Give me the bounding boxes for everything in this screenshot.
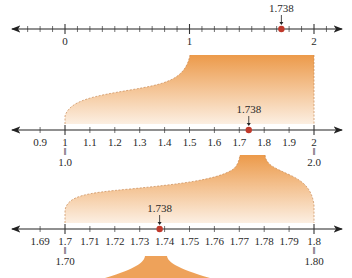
point-marker: [156, 226, 162, 232]
tick-label: 1.4: [158, 136, 172, 148]
marker-label: 1.738: [236, 103, 261, 115]
tick-label: 1.2: [108, 136, 122, 148]
tick-label: 1.7: [232, 136, 246, 148]
number-line-1: 0121.738: [12, 2, 342, 47]
point-marker: [246, 127, 252, 133]
tick-label: 1.76: [205, 235, 225, 247]
tick-label-alt: 1.80: [304, 255, 324, 267]
tick-label-alt: 1.0: [58, 156, 72, 168]
tick-label: 1.72: [105, 235, 124, 247]
tick-label: 1.78: [255, 235, 275, 247]
tick-label: 1.5: [183, 136, 197, 148]
tick-label-alt: 1.70: [55, 255, 75, 267]
tick-label: 1.6: [208, 136, 222, 148]
tick-label: 1: [187, 35, 193, 47]
tick-label: 1.75: [180, 235, 200, 247]
tick-label: 1.79: [279, 235, 299, 247]
tick-label: 1.71: [80, 235, 99, 247]
tick-label: 1.73: [130, 235, 150, 247]
tick-label: 0.9: [33, 136, 47, 148]
marker-label: 1.738: [269, 2, 294, 14]
tick-label: 1.3: [133, 136, 147, 148]
tick-label: 1.74: [155, 235, 175, 247]
tick-label: 1.69: [30, 235, 50, 247]
tick-label: 1.8: [257, 136, 271, 148]
marker-label: 1.738: [147, 202, 172, 214]
tick-label: 0: [62, 35, 68, 47]
point-marker: [278, 26, 284, 32]
tick-label: 1.9: [282, 136, 296, 148]
tick-label-alt: 2.0: [307, 156, 321, 168]
number-line-zoom-diagram: 0121.738 0.91‖1.01.11.21.31.41.51.61.71.…: [0, 0, 352, 278]
tick-label: 1.1: [83, 136, 97, 148]
tick-label: 1.77: [230, 235, 250, 247]
zoom-region-3: [105, 256, 210, 278]
zoom-region-2: [65, 155, 314, 223]
zoom-region-1: [65, 55, 314, 124]
tick-label: 2: [311, 35, 317, 47]
